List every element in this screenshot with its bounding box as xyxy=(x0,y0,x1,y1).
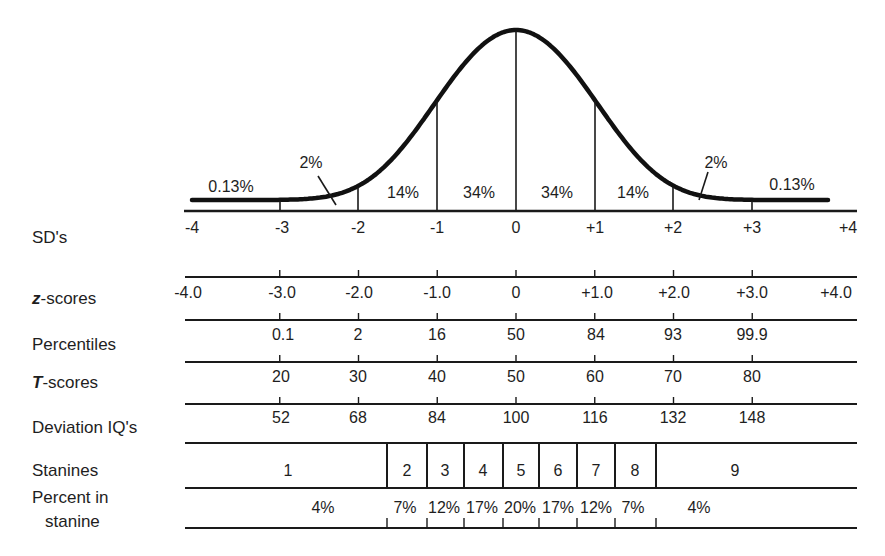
z-tick-label: +4.0 xyxy=(820,284,852,301)
z-symbol: z xyxy=(31,289,41,308)
t-tick-label: 60 xyxy=(586,368,604,385)
percent-in-stanine-row: 4% 7% 12% 17% 20% 17% 12% 7% 4% xyxy=(185,499,857,528)
iq-tick-label: 84 xyxy=(428,409,446,426)
sd-dividers xyxy=(280,31,752,211)
row-label-sd: SD's xyxy=(32,228,67,247)
t-tick-label: 50 xyxy=(507,368,525,385)
sd-tick-label: 0 xyxy=(512,219,521,236)
stanine-value: 1 xyxy=(284,462,293,479)
percent-value: 4% xyxy=(687,499,710,516)
z-tick-label: -2.0 xyxy=(345,284,373,301)
sd-tick-label: +1 xyxy=(586,219,604,236)
curve-area-labels: 0.13% 2% 14% 34% 34% 14% 2% 0.13% xyxy=(208,154,814,201)
iq-tick-label: 148 xyxy=(739,409,766,426)
sd-tick-label: +4 xyxy=(839,219,857,236)
stanine-value: 7 xyxy=(592,462,601,479)
sd-tick-label: +2 xyxy=(664,219,682,236)
row-label-percent-in-stanine-2: stanine xyxy=(45,512,100,531)
stanines-row: 1 2 3 4 5 6 7 8 9 xyxy=(185,443,857,488)
percentile-tick-label: 0.1 xyxy=(272,326,294,343)
area-label: 34% xyxy=(463,184,495,201)
iq-tick-label: 100 xyxy=(503,409,530,426)
t-tick-label: 80 xyxy=(743,368,761,385)
t-suffix: -scores xyxy=(42,373,98,392)
stanine-value: 5 xyxy=(517,462,526,479)
sd-tick-label: -4 xyxy=(185,219,199,236)
row-label-stanines: Stanines xyxy=(32,461,98,480)
pointer-left-2pct xyxy=(318,176,336,205)
percent-value: 17% xyxy=(542,499,574,516)
z-tick-label: -3.0 xyxy=(268,284,296,301)
stanine-value: 2 xyxy=(403,462,412,479)
area-label: 0.13% xyxy=(208,178,253,195)
sd-tick-label: -2 xyxy=(351,219,365,236)
sd-tick-label: +3 xyxy=(743,219,761,236)
iq-tick-label: 52 xyxy=(272,409,290,426)
sd-tick-label: -1 xyxy=(430,219,444,236)
z-scores-row: -4.0 -3.0 -2.0 -1.0 0 +1.0 +2.0 +3.0 +4.… xyxy=(174,270,857,301)
row-label-t-scores: T-scores xyxy=(32,373,98,392)
row-labels: SD's z-scores Percentiles T-scores Devia… xyxy=(31,228,137,531)
iq-tick-label: 132 xyxy=(660,409,687,426)
stanine-value: 3 xyxy=(441,462,450,479)
area-label: 34% xyxy=(541,184,573,201)
area-label: 14% xyxy=(387,184,419,201)
t-tick-label: 20 xyxy=(272,368,290,385)
area-label: 14% xyxy=(617,184,649,201)
iq-tick-label: 68 xyxy=(349,409,367,426)
percentile-tick-label: 84 xyxy=(587,326,605,343)
percentile-tick-label: 50 xyxy=(507,326,525,343)
percent-value: 7% xyxy=(393,499,416,516)
row-label-deviation-iq: Deviation IQ's xyxy=(32,418,137,437)
t-tick-label: 30 xyxy=(349,368,367,385)
row-label-percent-in-stanine-1: Percent in xyxy=(32,488,109,507)
z-suffix: -scores xyxy=(41,289,97,308)
percentile-tick-label: 99.9 xyxy=(736,326,767,343)
t-scores-row: 20 30 40 50 60 70 80 xyxy=(185,355,857,385)
z-tick-label: 0 xyxy=(512,284,521,301)
row-label-z-scores: z-scores xyxy=(31,289,96,308)
deviation-iq-row: 52 68 84 100 116 132 148 xyxy=(185,397,857,426)
z-tick-label: +3.0 xyxy=(736,284,768,301)
percent-value: 4% xyxy=(311,499,334,516)
t-tick-label: 40 xyxy=(428,368,446,385)
percentile-tick-label: 93 xyxy=(664,326,682,343)
z-tick-label: +2.0 xyxy=(658,284,690,301)
percent-value: 17% xyxy=(466,499,498,516)
stanine-value: 6 xyxy=(554,462,563,479)
stanine-value: 9 xyxy=(731,462,740,479)
t-tick-label: 70 xyxy=(664,368,682,385)
row-label-percentiles: Percentiles xyxy=(32,335,116,354)
percentiles-row: 0.1 2 16 50 84 93 99.9 xyxy=(185,313,857,343)
percent-value: 12% xyxy=(580,499,612,516)
percentile-tick-label: 2 xyxy=(354,326,363,343)
percent-value: 7% xyxy=(621,499,644,516)
z-tick-label: -1.0 xyxy=(423,284,451,301)
sd-tick-label: -3 xyxy=(275,219,289,236)
percentile-tick-label: 16 xyxy=(428,326,446,343)
area-label: 2% xyxy=(704,154,727,171)
z-tick-label: +1.0 xyxy=(581,284,613,301)
stanine-value: 4 xyxy=(479,462,488,479)
normal-curve-chart: 0.13% 2% 14% 34% 34% 14% 2% 0.13% -4 -3 … xyxy=(0,0,885,556)
percent-value: 20% xyxy=(504,499,536,516)
z-tick-label: -4.0 xyxy=(174,284,202,301)
iq-tick-label: 116 xyxy=(582,409,608,426)
stanine-value: 8 xyxy=(631,462,640,479)
sd-tick-labels: -4 -3 -2 -1 0 +1 +2 +3 +4 xyxy=(185,219,857,236)
percent-value: 12% xyxy=(428,499,460,516)
area-label: 2% xyxy=(299,154,322,171)
normal-curve xyxy=(192,30,828,200)
area-label: 0.13% xyxy=(769,176,814,193)
